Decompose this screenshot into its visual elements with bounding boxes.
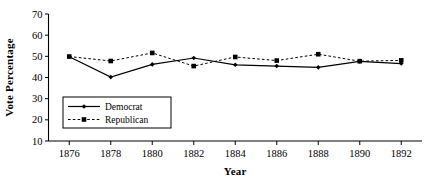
y-axis-tick-label: 70 (32, 9, 43, 20)
data-point-marker-square (399, 58, 404, 63)
data-point-marker-square (274, 58, 279, 63)
y-axis-tick-label: 40 (32, 72, 43, 83)
data-point-marker-diamond (150, 62, 155, 67)
legend-label-democrat: Democrat (105, 102, 143, 112)
x-axis-tick-label: 1882 (183, 148, 204, 159)
x-axis-tick-label: 1888 (308, 148, 329, 159)
chart-canvas: 1020304050607018761878188018821884188618… (0, 0, 431, 183)
y-axis-tick-label: 30 (32, 93, 43, 104)
y-axis-title: Vote Percentage (3, 38, 15, 116)
data-point-marker-diamond (233, 63, 238, 68)
x-axis-tick-label: 1880 (142, 148, 163, 159)
data-point-marker-square (108, 59, 113, 64)
data-point-marker-square (191, 64, 196, 69)
x-axis-tick-label: 1884 (225, 148, 247, 159)
x-axis-tick-label: 1892 (391, 148, 412, 159)
data-point-marker-square (316, 52, 321, 57)
y-axis-tick-label: 10 (32, 136, 43, 147)
y-axis-tick-label: 60 (32, 30, 43, 41)
y-axis-tick-label: 20 (32, 114, 43, 125)
data-point-marker-square (67, 54, 72, 59)
data-point-marker-square (233, 55, 238, 60)
data-point-marker-diamond (274, 64, 279, 69)
x-axis-tick-label: 1890 (349, 148, 370, 159)
data-point-marker-square (150, 51, 155, 56)
vote-percentage-line-chart: 1020304050607018761878188018821884188618… (0, 0, 431, 183)
y-axis-tick-label: 50 (32, 51, 43, 62)
data-point-marker-square (357, 59, 362, 64)
data-point-marker-diamond (191, 56, 196, 61)
x-axis-tick-label: 1886 (266, 148, 287, 159)
data-point-marker-square (82, 117, 87, 122)
legend-label-republican: Republican (105, 115, 149, 125)
x-axis-title: Year (224, 165, 247, 177)
data-point-marker-diamond (316, 65, 321, 70)
x-axis-tick-label: 1876 (59, 148, 80, 159)
data-point-marker-diamond (108, 75, 113, 80)
x-axis-tick-label: 1878 (100, 148, 121, 159)
